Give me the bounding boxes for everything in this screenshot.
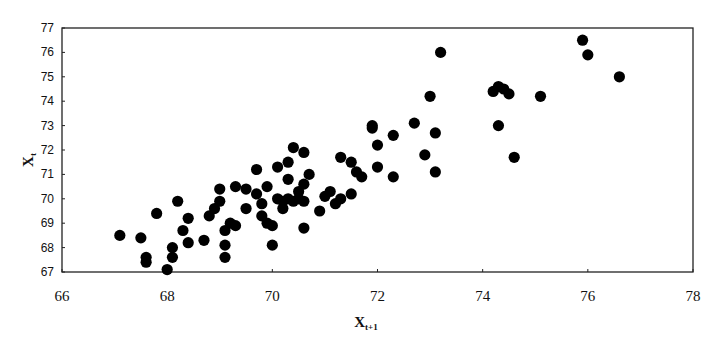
- y-axis-ticks: 6768697071727374757677: [41, 21, 65, 279]
- data-point: [314, 205, 325, 216]
- data-points: [114, 35, 625, 276]
- x-tick-label: 74: [475, 288, 491, 304]
- data-point: [367, 122, 378, 133]
- data-point: [388, 130, 399, 141]
- data-point: [614, 71, 625, 82]
- data-point: [162, 264, 173, 275]
- data-point: [219, 252, 230, 263]
- data-point: [214, 183, 225, 194]
- data-point: [240, 203, 251, 214]
- data-point: [335, 193, 346, 204]
- data-point: [298, 222, 309, 233]
- x-tick-label: 70: [265, 288, 280, 304]
- x-tick-label: 72: [370, 288, 385, 304]
- data-point: [267, 240, 278, 251]
- data-point: [298, 196, 309, 207]
- data-point: [167, 242, 178, 253]
- data-point: [230, 181, 241, 192]
- y-tick-label: 70: [41, 192, 55, 206]
- data-point: [335, 152, 346, 163]
- y-tick-label: 76: [41, 45, 55, 59]
- data-point: [230, 220, 241, 231]
- data-point: [261, 181, 272, 192]
- y-tick-label: 68: [41, 241, 55, 255]
- data-point: [493, 120, 504, 131]
- data-point: [582, 49, 593, 60]
- data-point: [424, 91, 435, 102]
- x-tick-label: 76: [580, 288, 596, 304]
- data-point: [409, 118, 420, 129]
- data-point: [535, 91, 546, 102]
- data-point: [214, 196, 225, 207]
- data-point: [288, 142, 299, 153]
- y-tick-label: 69: [41, 216, 55, 230]
- data-point: [503, 88, 514, 99]
- y-tick-label: 72: [41, 143, 55, 157]
- data-point: [219, 240, 230, 251]
- data-point: [283, 174, 294, 185]
- y-tick-label: 71: [41, 167, 55, 181]
- x-axis-ticks: 66687072747678: [55, 269, 701, 304]
- data-point: [240, 183, 251, 194]
- data-point: [251, 164, 262, 175]
- data-point: [430, 127, 441, 138]
- y-tick-label: 67: [41, 265, 55, 279]
- data-point: [435, 47, 446, 58]
- data-point: [325, 186, 336, 197]
- x-tick-label: 78: [686, 288, 701, 304]
- data-point: [272, 161, 283, 172]
- data-point: [577, 35, 588, 46]
- data-point: [298, 179, 309, 190]
- data-point: [198, 235, 209, 246]
- data-point: [356, 171, 367, 182]
- data-point: [114, 230, 125, 241]
- data-point: [267, 220, 278, 231]
- data-point: [419, 149, 430, 160]
- y-tick-label: 75: [41, 70, 55, 84]
- data-point: [509, 152, 520, 163]
- data-point: [346, 188, 357, 199]
- data-point: [372, 161, 383, 172]
- data-point: [151, 208, 162, 219]
- data-point: [346, 157, 357, 168]
- data-point: [183, 237, 194, 248]
- y-tick-label: 77: [41, 21, 55, 35]
- y-tick-label: 74: [41, 94, 55, 108]
- data-point: [135, 232, 146, 243]
- y-tick-label: 73: [41, 119, 55, 133]
- data-point: [251, 188, 262, 199]
- data-point: [298, 147, 309, 158]
- data-point: [256, 198, 267, 209]
- scatter-chart: 6768697071727374757677 66687072747678 Xt…: [0, 0, 719, 348]
- data-point: [388, 171, 399, 182]
- x-axis-label: Xt+1: [354, 314, 378, 332]
- data-point: [372, 140, 383, 151]
- data-point: [172, 196, 183, 207]
- data-point: [183, 213, 194, 224]
- data-point: [167, 252, 178, 263]
- y-axis-label: Xt: [20, 153, 38, 167]
- data-point: [141, 257, 152, 268]
- data-point: [430, 166, 441, 177]
- data-point: [304, 169, 315, 180]
- x-tick-label: 68: [160, 288, 175, 304]
- data-point: [283, 157, 294, 168]
- data-point: [177, 225, 188, 236]
- x-tick-label: 66: [55, 288, 71, 304]
